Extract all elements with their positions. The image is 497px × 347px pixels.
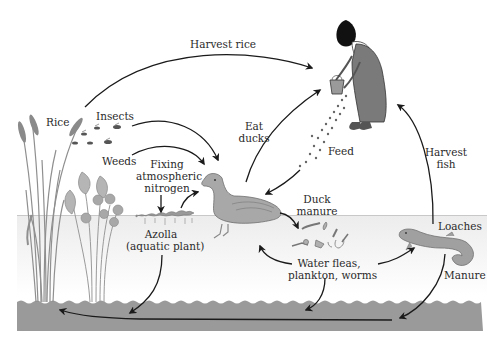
arrow-harvest-rice <box>85 55 312 107</box>
label-insects: Insects <box>96 110 134 122</box>
label-azolla-line1: Azolla <box>126 228 196 240</box>
label-eat-ducks: Eat ducks <box>236 120 272 144</box>
label-invertebrates-line2: plankton, worms <box>288 269 370 281</box>
label-harvest-fish: Harvest fish <box>424 146 468 170</box>
label-azolla: Azolla (aquatic plant) <box>126 228 196 252</box>
arrow-azolla-to-duck <box>181 192 198 208</box>
label-feed: Feed <box>328 145 354 157</box>
label-eat-line1: Eat <box>236 120 272 132</box>
rice-duck-fish-diagram: Harvest rice Rice Insects Weeds Fixing a… <box>0 0 497 347</box>
arrow-feed <box>266 170 300 194</box>
label-fixing-line1: Fixing <box>136 158 198 170</box>
label-harvest-fish-line1: Harvest <box>424 146 468 158</box>
label-rice: Rice <box>46 116 69 128</box>
label-weeds: Weeds <box>102 155 136 167</box>
label-fixing-line3: nitrogen <box>136 182 198 194</box>
label-harvest-rice: Harvest rice <box>190 38 256 50</box>
label-eat-line2: ducks <box>236 132 272 144</box>
label-harvest-fish-line2: fish <box>424 158 468 170</box>
label-invertebrates: Water fleas, plankton, worms <box>288 257 370 281</box>
label-fixing-line2: atmospheric <box>136 170 198 182</box>
label-fixing-nitrogen: Fixing atmospheric nitrogen <box>136 158 198 194</box>
label-duck-manure: Duck manure <box>295 193 339 217</box>
label-manure: Manure <box>444 269 486 281</box>
label-duck-manure-line1: Duck <box>295 193 339 205</box>
label-duck-manure-line2: manure <box>295 205 339 217</box>
label-loaches: Loaches <box>438 220 482 232</box>
label-azolla-line2: (aquatic plant) <box>126 240 196 252</box>
label-invertebrates-line1: Water fleas, <box>288 257 370 269</box>
arrow-insects-to-duck <box>132 121 218 160</box>
diagram-canvas <box>0 0 497 347</box>
farmer-illustration <box>330 20 386 130</box>
